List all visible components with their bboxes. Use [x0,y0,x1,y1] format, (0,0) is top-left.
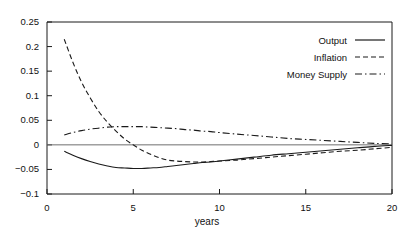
legend-label: Inflation [314,52,354,63]
y-tick-label: 0.1 [0,91,39,101]
y-tick-label: 0.15 [0,66,39,76]
y-tick-label: 0.05 [0,116,39,126]
legend-swatch-dashdot [354,69,386,79]
legend-label: Output [318,35,354,46]
legend-item-inflation[interactable]: Inflation [314,50,386,64]
y-tick-label: 0 [0,140,39,150]
tick-marks [47,22,392,194]
legend-swatch-dashed [354,52,386,62]
y-tick-label: −0.1 [0,189,39,199]
y-tick-label: 0.25 [0,17,39,27]
chart-figure: 0.250.20.150.10.050−0.05−0.1 05101520 ye… [0,0,414,238]
x-tick-label: 20 [387,203,398,213]
series-line-money-supply [64,127,392,144]
axis-frame [47,22,392,194]
legend-label: Money Supply [287,69,354,80]
x-tick-label: 10 [214,203,225,213]
y-tick-label: −0.05 [0,165,39,175]
axis-frame-border [47,22,392,194]
legend-item-money-supply[interactable]: Money Supply [287,67,386,81]
legend-item-output[interactable]: Output [318,33,386,47]
series-line-output [64,145,392,168]
x-axis-label: years [0,216,414,227]
x-tick-label: 0 [44,203,49,213]
x-tick-label: 15 [300,203,311,213]
x-tick-label: 5 [131,203,136,213]
legend-swatch-solid [354,35,386,45]
y-tick-label: 0.2 [0,42,39,52]
